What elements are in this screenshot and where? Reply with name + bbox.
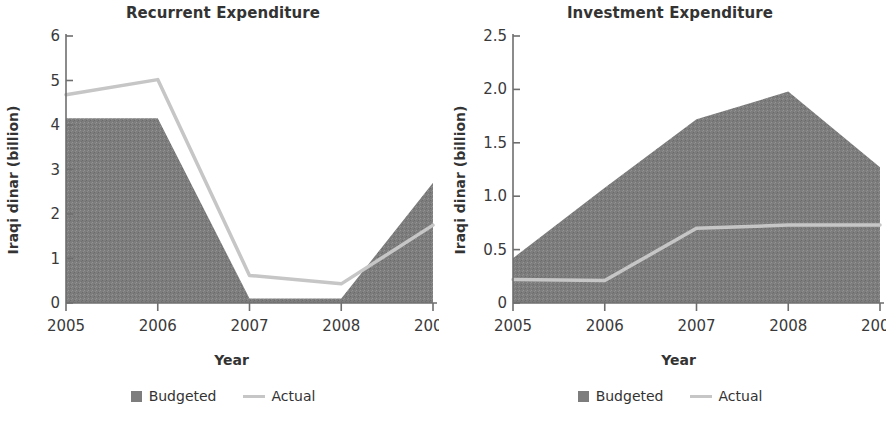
chart-title-recurrent: Recurrent Expenditure: [0, 4, 446, 22]
x-tick-label: 2007: [677, 317, 715, 335]
plot-svg-investment: 00.51.01.52.02.520052006200720082009: [471, 26, 886, 351]
legend-entry-actual: Actual: [690, 388, 763, 404]
x-tick-label: 2005: [494, 317, 532, 335]
y-tick-label: 6: [50, 27, 60, 45]
y-tick-label: 2: [50, 205, 60, 223]
legend-investment: Budgeted Actual: [447, 388, 893, 404]
x-tick-label: 2008: [769, 317, 807, 335]
legend-line-actual-icon: [690, 395, 712, 398]
x-axis-label-investment: Year: [471, 352, 886, 368]
legend-label-actual: Actual: [719, 388, 763, 404]
y-tick-label: 0: [497, 294, 507, 312]
y-axis-label-investment: Iraqi dinar (billion): [449, 40, 471, 320]
y-axis-label-recurrent: Iraqi dinar (billion): [2, 40, 24, 320]
plot-area-recurrent: 012345620052006200720082009: [24, 26, 439, 351]
y-axis-label-text: Iraqi dinar (billion): [452, 106, 468, 255]
legend-entry-actual: Actual: [243, 388, 316, 404]
x-tick-label: 2009: [861, 317, 886, 335]
y-tick-label: 1: [50, 250, 60, 268]
chart-panel-recurrent-expenditure: Recurrent Expenditure Iraqi dinar (billi…: [0, 0, 446, 421]
y-tick-label: 5: [50, 72, 60, 90]
figure-two-panel-expenditure: Recurrent Expenditure Iraqi dinar (billi…: [0, 0, 893, 421]
legend-entry-budgeted: Budgeted: [578, 388, 664, 404]
x-axis-label-recurrent: Year: [24, 352, 439, 368]
y-tick-label: 0.5: [483, 241, 507, 259]
x-tick-label: 2006: [139, 317, 177, 335]
y-tick-label: 4: [50, 116, 60, 134]
y-axis-label-text: Iraqi dinar (billion): [5, 106, 21, 255]
legend-swatch-budgeted-icon: [131, 391, 142, 402]
legend-label-actual: Actual: [272, 388, 316, 404]
y-tick-label: 0: [50, 294, 60, 312]
y-tick-label: 3: [50, 161, 60, 179]
legend-entry-budgeted: Budgeted: [131, 388, 217, 404]
x-tick-label: 2005: [47, 317, 85, 335]
legend-recurrent: Budgeted Actual: [0, 388, 446, 404]
plot-area-investment: 00.51.01.52.02.520052006200720082009: [471, 26, 886, 351]
x-tick-label: 2006: [586, 317, 624, 335]
y-tick-label: 1.0: [483, 187, 507, 205]
plot-svg-recurrent: 012345620052006200720082009: [24, 26, 439, 351]
y-tick-label: 2.0: [483, 80, 507, 98]
x-tick-label: 2009: [414, 317, 439, 335]
chart-panel-investment-expenditure: Investment Expenditure Iraqi dinar (bill…: [447, 0, 893, 421]
area-budgeted: [513, 92, 880, 303]
legend-label-budgeted: Budgeted: [149, 388, 217, 404]
legend-label-budgeted: Budgeted: [596, 388, 664, 404]
legend-line-actual-icon: [243, 395, 265, 398]
y-tick-label: 1.5: [483, 134, 507, 152]
legend-swatch-budgeted-icon: [578, 391, 589, 402]
x-tick-label: 2008: [322, 317, 360, 335]
x-tick-label: 2007: [230, 317, 268, 335]
y-tick-label: 2.5: [483, 27, 507, 45]
chart-title-investment: Investment Expenditure: [447, 4, 893, 22]
